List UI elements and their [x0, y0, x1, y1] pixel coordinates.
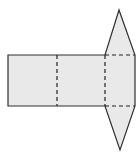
prism-net-figure-container — [0, 0, 140, 161]
net-silhouette — [8, 10, 135, 150]
prism-net-figure — [0, 0, 140, 161]
